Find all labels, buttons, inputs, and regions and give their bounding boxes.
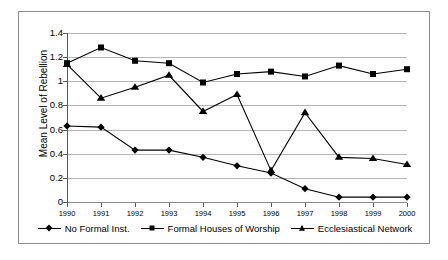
data-point-marker <box>403 194 410 201</box>
series-line <box>67 47 407 82</box>
data-point-marker <box>233 90 241 97</box>
data-point-marker <box>268 69 274 75</box>
data-point-marker <box>369 194 376 201</box>
data-point-marker <box>132 58 138 64</box>
legend-label: Ecclesiastical Network <box>318 223 413 234</box>
legend-label: No Formal Inst. <box>65 223 130 234</box>
data-point-marker <box>267 167 275 174</box>
legend-label: Formal Houses of Worship <box>168 223 280 234</box>
data-point-marker <box>302 73 308 79</box>
data-point-marker <box>335 194 342 201</box>
data-point-marker <box>233 162 240 169</box>
legend-item[interactable]: Ecclesiastical Network <box>291 223 413 234</box>
legend-item[interactable]: Formal Houses of Worship <box>141 223 280 234</box>
data-point-marker <box>301 185 308 192</box>
legend-marker-diamond-icon <box>38 224 61 233</box>
data-point-marker <box>369 154 377 161</box>
data-point-marker <box>404 66 410 72</box>
data-point-marker <box>301 109 309 116</box>
legend-item[interactable]: No Formal Inst. <box>38 223 130 234</box>
data-point-marker <box>370 71 376 77</box>
series-formal-houses-of-worship <box>64 44 410 85</box>
data-point-marker <box>166 60 172 66</box>
data-point-marker <box>200 79 206 85</box>
chart-figure: Mean Level of Rebellion 00.20.40.60.811.… <box>18 11 430 244</box>
data-point-marker <box>165 71 173 78</box>
series-line <box>67 64 407 170</box>
data-point-marker <box>234 71 240 77</box>
data-point-marker <box>199 154 206 161</box>
series-line <box>67 126 407 197</box>
data-point-marker <box>97 124 104 131</box>
data-point-marker <box>165 146 172 153</box>
legend-marker-square-icon <box>141 224 164 233</box>
legend-marker-triangle-icon <box>291 224 314 233</box>
series-no-formal-inst <box>63 122 410 200</box>
series-plot-area <box>19 12 431 245</box>
series-ecclesiastical-network <box>63 60 411 173</box>
data-point-marker <box>131 146 138 153</box>
data-point-marker <box>336 63 342 69</box>
chart-legend: No Formal Inst.Formal Houses of WorshipE… <box>19 217 431 239</box>
data-point-marker <box>98 44 104 50</box>
data-point-marker <box>63 122 70 129</box>
